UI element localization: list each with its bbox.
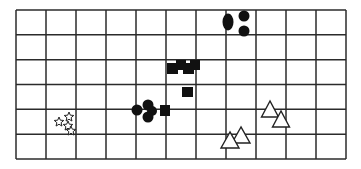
circle-marker bbox=[223, 14, 234, 31]
circle-marker bbox=[132, 105, 143, 116]
square-marker bbox=[182, 87, 193, 97]
circle-marker bbox=[239, 26, 250, 37]
square-marker bbox=[190, 60, 200, 70]
circle-marker bbox=[239, 11, 250, 22]
square-marker bbox=[160, 105, 170, 116]
circle-marker bbox=[143, 112, 154, 123]
grid-diagram bbox=[0, 0, 361, 169]
